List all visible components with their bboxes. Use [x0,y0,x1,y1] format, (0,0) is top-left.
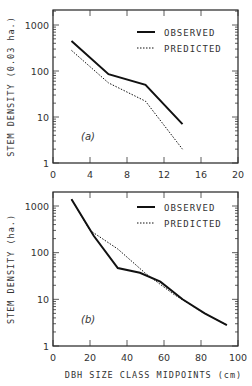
x-tick-label: 12 [158,169,170,180]
legend-observed-label: OBSERVED [164,203,215,213]
x-tick-label: 0 [50,352,56,363]
y-tick-label: 10 [37,294,49,305]
panel-label: (a) [81,131,95,142]
legend-observed-label: OBSERVED [164,28,215,38]
legend-predicted-label: PREDICTED [164,44,222,54]
x-tick-label: 0 [50,169,56,180]
x-tick-label: 60 [158,352,170,363]
chart-panel-a: 1101001000048121620STEM DENSITY (0.03 ha… [6,10,244,180]
y-axis-label: STEM DENSITY (0.03 ha.) [6,16,16,157]
y-tick-label: 1 [43,341,49,352]
y-tick-label: 1 [43,158,49,169]
x-tick-label: 16 [195,169,207,180]
x-tick-label: 40 [121,352,133,363]
x-axis-label: DBH SIZE CLASS MIDPOINTS (cm) [65,370,242,380]
x-tick-label: 20 [84,352,96,363]
chart-figure: 1101001000048121620STEM DENSITY (0.03 ha… [0,0,252,386]
x-tick-label: 80 [195,352,207,363]
y-tick-label: 100 [31,247,49,258]
y-tick-label: 100 [31,66,49,77]
y-tick-label: 1000 [25,20,49,31]
x-tick-label: 8 [124,169,130,180]
y-axis-label: STEM DENSITY (ha.) [6,214,16,324]
panel-label: (b) [81,314,95,325]
chart-panel-b: 1101001000020406080100STEM DENSITY (ha.)… [6,192,247,380]
y-tick-label: 10 [37,112,49,123]
x-tick-label: 20 [232,169,244,180]
legend-predicted-label: PREDICTED [164,219,222,229]
x-tick-label: 4 [87,169,93,180]
x-tick-label: 100 [229,352,247,363]
y-tick-label: 1000 [25,201,49,212]
